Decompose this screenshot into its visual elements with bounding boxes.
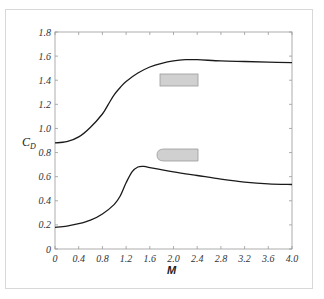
y-tick-label: 1.8 <box>39 27 52 38</box>
x-tick-label: 2.4 <box>191 253 204 264</box>
x-tick-label: 4.0 <box>286 253 299 264</box>
x-tick-label: 0 <box>53 253 58 264</box>
x-tick-label: 3.6 <box>261 253 275 264</box>
y-axis-title: CD <box>22 135 36 151</box>
series-curve-2 <box>55 166 292 227</box>
x-tick-label: 3.2 <box>237 253 251 264</box>
y-tick-labels: 00.20.40.60.81.01.21.41.61.8 <box>39 27 52 255</box>
drag-coefficient-chart: 00.40.81.21.62.02.42.83.23.64.0 00.20.40… <box>0 0 324 299</box>
x-tick-label: 1.6 <box>144 253 157 264</box>
y-tick-label: 0.8 <box>39 147 52 158</box>
rectangle-body-icon <box>160 74 198 86</box>
x-tick-label: 2.8 <box>215 253 228 264</box>
x-tick-label: 0.8 <box>96 253 109 264</box>
x-tick-label: 2.0 <box>167 253 180 264</box>
x-tick-label: 0.4 <box>72 253 85 264</box>
y-tick-label: 0 <box>46 244 51 255</box>
x-axis-title: M <box>167 264 177 276</box>
tick-marks <box>55 32 292 249</box>
y-tick-label: 0.4 <box>39 195 52 206</box>
series-curve-1 <box>55 60 292 143</box>
y-tick-label: 0.6 <box>39 171 52 182</box>
bullet-body-icon <box>157 149 198 161</box>
y-tick-label: 1.4 <box>39 75 52 86</box>
y-tick-label: 0.2 <box>39 219 52 230</box>
y-tick-label: 1.6 <box>39 51 52 62</box>
y-tick-label: 1.2 <box>39 99 52 110</box>
y-tick-label: 1.0 <box>39 123 52 134</box>
body-shape-icons <box>157 74 198 161</box>
plot-axes <box>55 32 292 249</box>
x-tick-label: 1.2 <box>120 253 133 264</box>
x-tick-labels: 00.40.81.21.62.02.42.83.23.64.0 <box>53 253 299 264</box>
